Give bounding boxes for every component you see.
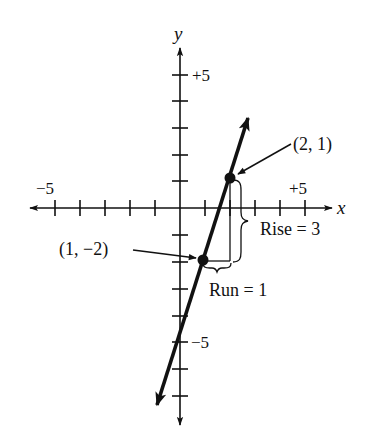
run-label: Run = 1 [209, 280, 267, 300]
point-1-neg2 [198, 255, 209, 266]
point-2-1 [225, 173, 236, 184]
x-axis-label: x [336, 197, 346, 218]
y-tick-label-plus-5: +5 [192, 66, 210, 85]
point-label-1-neg2: (1, −2) [59, 239, 108, 260]
y-axis-label: y [172, 23, 183, 44]
y-axis [172, 48, 188, 425]
coordinate-graph: y x +5 −5 −5 +5 (2, 1) (1, −2) Rise = 3 … [0, 0, 367, 443]
pointer-arrow-2-1 [238, 144, 291, 174]
point-label-2-1: (2, 1) [293, 134, 332, 155]
pointer-arrow-1-neg2 [133, 250, 196, 258]
x-axis [30, 200, 332, 216]
x-tick-label-plus-5: +5 [289, 179, 307, 198]
rise-label: Rise = 3 [260, 219, 320, 239]
y-tick-label-minus-5: −5 [191, 333, 209, 352]
x-tick-label-minus-5: −5 [36, 179, 54, 198]
run-brace [203, 263, 231, 272]
rise-brace [233, 180, 248, 262]
